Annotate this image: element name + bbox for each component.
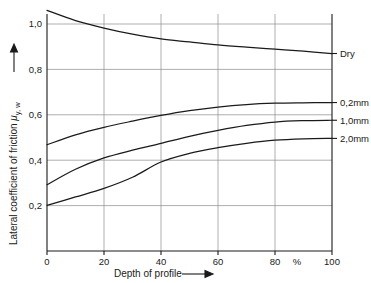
x-tick-label-1: 20 <box>99 256 110 267</box>
arrow-up-icon <box>11 44 18 52</box>
curve-series-1 <box>47 103 332 145</box>
x-axis-title: Depth of profile <box>114 268 182 279</box>
series-label-2: 1,0mm <box>340 115 369 126</box>
series-label-3: 2,0mm <box>340 133 369 144</box>
x-tick-label-4: 80 <box>270 256 281 267</box>
x-tick-label-5: 100 <box>324 256 340 267</box>
series-label-1: 0,2mm <box>340 97 369 108</box>
y-tick-label-3: 0,8 <box>29 64 42 75</box>
line-chart: Dry0,2mm1,0mm2,0mm 0,20,40,60,81,0 02040… <box>0 0 371 283</box>
vertical-gridlines <box>104 14 275 251</box>
x-tick-label-2: 40 <box>156 256 167 267</box>
y-tick-labels: 0,20,40,60,81,0 <box>29 18 42 211</box>
y-axis-title-group: Lateral coefficient of friction μy, w <box>8 44 22 245</box>
y-axis-title: Lateral coefficient of friction μy, w <box>8 102 22 245</box>
x-tick-label-3: 60 <box>213 256 224 267</box>
x-axis-title-group: Depth of profile <box>114 268 213 279</box>
y-tick-label-1: 0,4 <box>29 155 42 166</box>
curve-series-3 <box>47 138 332 205</box>
curve-series-0 <box>47 10 332 53</box>
y-tick-label-4: 1,0 <box>29 18 42 29</box>
curve-series-2 <box>47 120 332 184</box>
horizontal-gridlines <box>47 24 332 206</box>
series-label-0: Dry <box>340 48 355 59</box>
y-tick-label-2: 0,6 <box>29 109 42 120</box>
chart-container: Dry0,2mm1,0mm2,0mm 0,20,40,60,81,0 02040… <box>0 0 371 283</box>
series-labels-group: Dry0,2mm1,0mm2,0mm <box>332 48 369 144</box>
arrow-right-icon <box>205 271 213 278</box>
y-axis-subscript: y, w <box>13 102 22 115</box>
data-curves <box>47 10 332 205</box>
y-axis-title-text: Lateral coefficient of friction <box>8 121 19 245</box>
x-axis-unit-label: % <box>293 256 302 267</box>
y-tick-label-0: 0,2 <box>29 200 42 211</box>
x-tick-label-0: 0 <box>44 256 49 267</box>
